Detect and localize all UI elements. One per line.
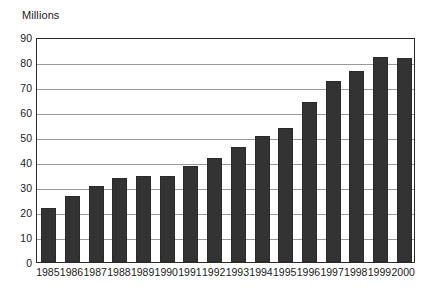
x-tick-label-1989: 1989 xyxy=(131,266,155,278)
bar-1998 xyxy=(349,71,364,262)
x-tick-label-1986: 1986 xyxy=(60,266,84,278)
x-tick-label-1987: 1987 xyxy=(83,266,107,278)
y-tick-label-70: 70 xyxy=(2,82,32,94)
bar-1992 xyxy=(207,158,222,262)
x-tick-label-1988: 1988 xyxy=(107,266,131,278)
y-tick-label-80: 80 xyxy=(2,57,32,69)
y-tick-label-0: 0 xyxy=(2,257,32,269)
x-tick-label-1992: 1992 xyxy=(202,266,226,278)
x-tick-label-2000: 2000 xyxy=(391,266,415,278)
y-tick-label-60: 60 xyxy=(2,107,32,119)
y-tick-label-50: 50 xyxy=(2,132,32,144)
y-tick-label-90: 90 xyxy=(2,32,32,44)
x-tick-label-1998: 1998 xyxy=(344,266,368,278)
bar-1994 xyxy=(255,136,270,262)
bar-1995 xyxy=(278,128,293,262)
bar-1993 xyxy=(231,147,246,262)
x-tick-label-1990: 1990 xyxy=(154,266,178,278)
bar-chart: Millions 0102030405060708090 19851986198… xyxy=(0,0,440,294)
bar-1997 xyxy=(326,81,341,262)
bar-1985 xyxy=(41,208,56,262)
bar-1991 xyxy=(183,166,198,262)
bar-1988 xyxy=(112,178,127,262)
x-tick-label-1993: 1993 xyxy=(226,266,250,278)
bar-1999 xyxy=(373,57,388,262)
bar-1990 xyxy=(160,176,175,262)
bar-1987 xyxy=(89,186,104,262)
bar-1996 xyxy=(302,102,317,262)
bar-1989 xyxy=(136,176,151,262)
y-tick-label-10: 10 xyxy=(2,232,32,244)
x-tick-label-1997: 1997 xyxy=(320,266,344,278)
bar-2000 xyxy=(397,58,412,262)
x-tick-label-1999: 1999 xyxy=(368,266,392,278)
x-tick-label-1994: 1994 xyxy=(249,266,273,278)
x-tick-label-1991: 1991 xyxy=(178,266,202,278)
x-tick-label-1985: 1985 xyxy=(36,266,60,278)
bar-1986 xyxy=(65,196,80,262)
y-axis-unit-label: Millions xyxy=(22,9,59,21)
x-tick-label-1995: 1995 xyxy=(273,266,297,278)
y-tick-label-20: 20 xyxy=(2,207,32,219)
y-axis-tick-labels: 0102030405060708090 xyxy=(0,38,32,263)
y-tick-label-40: 40 xyxy=(2,157,32,169)
y-tick-label-30: 30 xyxy=(2,182,32,194)
x-tick-label-1996: 1996 xyxy=(297,266,321,278)
plot-area xyxy=(36,38,415,263)
bars-layer xyxy=(37,39,414,262)
x-axis-tick-labels: 1985198619871988198919901991199219931994… xyxy=(36,266,415,282)
